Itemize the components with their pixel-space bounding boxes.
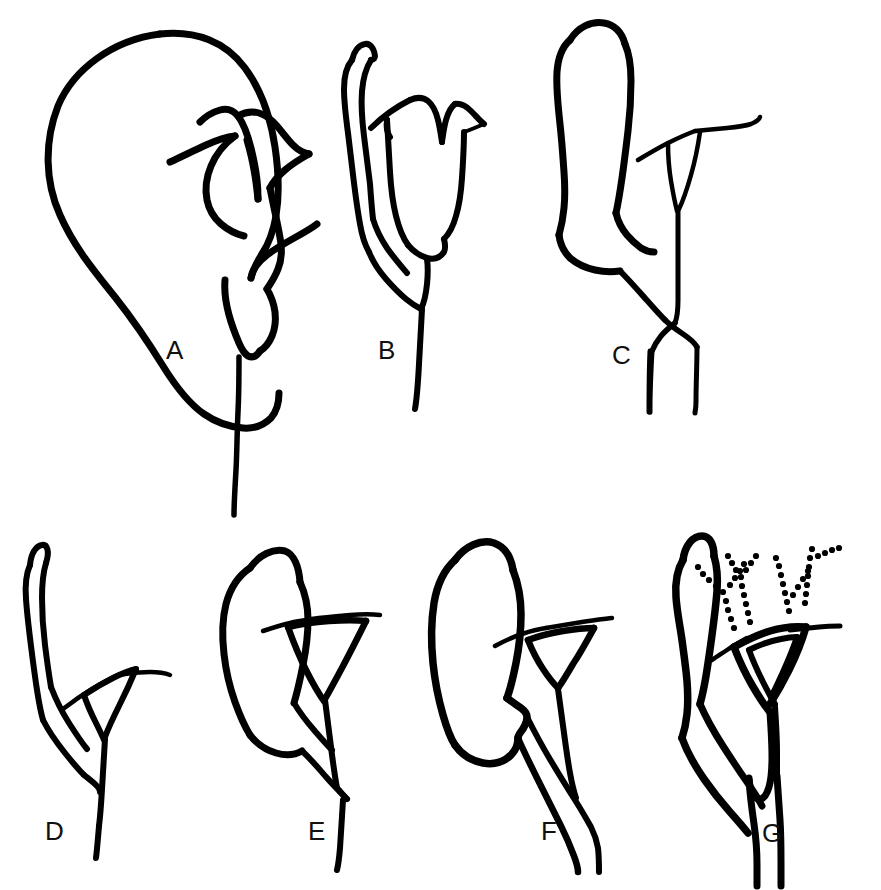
panel-g-stalk-inner-channel [775, 707, 777, 776]
panel-g-label: G [762, 818, 783, 848]
figure-plate-drawing: A [0, 0, 881, 890]
panel-c-label: C [612, 340, 631, 370]
panel-e-label: E [308, 816, 326, 846]
panel-c-stalk-left-lower [649, 351, 650, 412]
panel-a-label: A [166, 335, 184, 365]
panel-b-funnel-inner-left [387, 120, 390, 137]
panel-f-label: F [541, 816, 557, 846]
panel-d-stalk-lower [96, 826, 99, 858]
figure-plate: A [0, 0, 881, 890]
panel-c-stalk-right [695, 347, 697, 413]
panel-b-label: B [378, 335, 396, 365]
panel-d-label: D [45, 816, 64, 846]
